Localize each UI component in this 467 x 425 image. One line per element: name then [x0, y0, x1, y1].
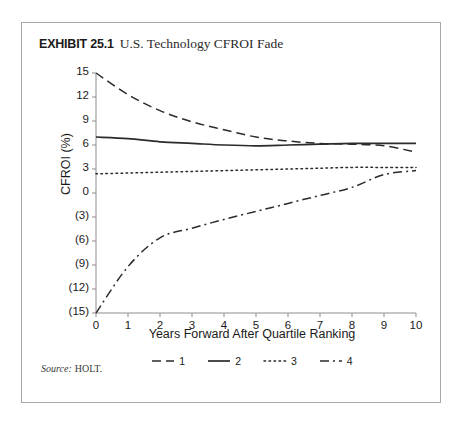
source-note: Source:HOLT.: [41, 363, 102, 374]
series-line-4: [96, 171, 416, 313]
source-label: Source:: [41, 363, 72, 374]
x-tick-label: 3: [181, 319, 203, 331]
exhibit-frame: EXHIBIT 25.1U.S. Technology CFROI Fade C…: [21, 22, 441, 403]
legend-label: 1: [179, 355, 185, 367]
chart-legend: 1234: [84, 355, 420, 367]
legend-label: 4: [347, 355, 353, 367]
y-tick-label: 6: [49, 137, 89, 149]
plot-svg: [44, 65, 420, 325]
exhibit-title-text: U.S. Technology CFROI Fade: [120, 36, 283, 51]
y-tick-label: 9: [49, 113, 89, 125]
y-tick-label: 0: [49, 185, 89, 197]
legend-label: 3: [291, 355, 297, 367]
legend-label: 2: [235, 355, 241, 367]
y-tick-label: 15: [49, 65, 89, 77]
x-tick-label: 1: [117, 319, 139, 331]
y-tick-label: (6): [49, 233, 89, 245]
exhibit-number-label: EXHIBIT 25.1: [39, 37, 114, 51]
x-tick-label: 6: [277, 319, 299, 331]
exhibit-title: EXHIBIT 25.1U.S. Technology CFROI Fade: [39, 34, 283, 52]
x-tick-label: 7: [309, 319, 331, 331]
source-value: HOLT.: [75, 363, 103, 374]
legend-item-1[interactable]: 1: [151, 355, 185, 367]
x-tick-label: 9: [373, 319, 395, 331]
x-tick-label: 4: [213, 319, 235, 331]
series-line-3: [96, 167, 416, 173]
legend-item-2[interactable]: 2: [207, 355, 241, 367]
x-tick-label: 2: [149, 319, 171, 331]
y-tick-label: (9): [49, 257, 89, 269]
y-tick-label: (3): [49, 209, 89, 221]
y-tick-label: 3: [49, 161, 89, 173]
cfroi-fade-chart: CFROI (%) Years Forward After Quartile R…: [44, 65, 420, 355]
y-tick-label: (15): [49, 305, 89, 317]
x-tick-label: 0: [85, 319, 107, 331]
x-tick-label: 5: [245, 319, 267, 331]
legend-swatch-dashed-icon: [151, 357, 175, 365]
x-tick-label: 10: [405, 319, 427, 331]
y-tick-label: (12): [49, 281, 89, 293]
y-tick-label: 12: [49, 89, 89, 101]
legend-swatch-dotted-icon: [263, 357, 287, 365]
x-tick-label: 8: [341, 319, 363, 331]
legend-swatch-dashdot-icon: [319, 357, 343, 365]
legend-item-4[interactable]: 4: [319, 355, 353, 367]
legend-item-3[interactable]: 3: [263, 355, 297, 367]
legend-swatch-solid-icon: [207, 357, 231, 365]
